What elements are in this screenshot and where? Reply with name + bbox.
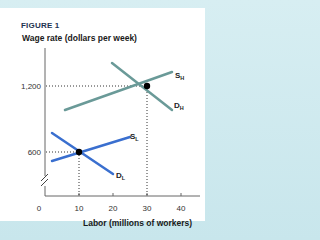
y-tick-1200: 1,200	[21, 82, 42, 91]
x-tick-0: 0	[37, 204, 42, 213]
supply-curve-high	[65, 72, 172, 110]
guide-lines	[46, 86, 147, 196]
x-axis-title: Labor (millions of workers)	[83, 218, 192, 228]
y-tick-600: 600	[28, 148, 42, 157]
x-tick-20: 20	[109, 204, 118, 213]
label-supply-high: SH	[175, 71, 184, 81]
x-tick-10: 10	[75, 204, 84, 213]
demand-curve-low	[52, 133, 113, 174]
equilibrium-point-low	[76, 149, 82, 155]
x-tick-40: 40	[177, 204, 186, 213]
label-demand-high: DH	[174, 101, 184, 111]
label-supply-low: SL	[130, 132, 139, 142]
equilibrium-point-high	[144, 83, 150, 89]
x-tick-30: 30	[143, 204, 152, 213]
label-demand-low: DL	[116, 171, 126, 181]
chart-canvas: 0 10 20 30 40 1,200 600 SH DH SL DL	[0, 0, 216, 240]
